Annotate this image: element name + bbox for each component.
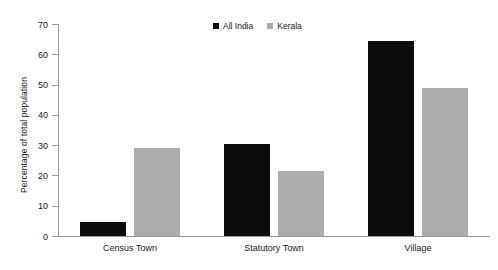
y-axis-tick: 0	[52, 236, 58, 237]
y-axis-tick-label: 50	[38, 81, 48, 90]
bar-all-india-census-town	[80, 222, 126, 236]
bar-kerala-village	[422, 88, 468, 236]
y-axis-tick-label: 70	[38, 20, 48, 29]
x-axis-label-village: Village	[405, 243, 432, 253]
bar-all-india-statutory-town	[224, 144, 270, 236]
bar-kerala-census-town	[134, 148, 180, 236]
legend-swatch-icon	[267, 23, 273, 29]
x-axis-label-statutory-town: Statutory Town	[244, 243, 303, 253]
legend-entry-kerala[interactable]: Kerala	[267, 22, 302, 31]
x-axis-line	[58, 236, 490, 237]
bar-all-india-village	[368, 41, 414, 236]
y-axis-tick-label: 30	[38, 141, 48, 150]
legend-label: Kerala	[277, 22, 302, 31]
x-axis-label-census-town: Census Town	[103, 243, 157, 253]
legend-swatch-icon	[213, 23, 219, 29]
y-axis-tick-label: 60	[38, 50, 48, 59]
bar-kerala-statutory-town	[278, 171, 324, 236]
y-axis-tick-label: 10	[38, 202, 48, 211]
bar-chart: Percentage of total population 010203040…	[0, 0, 498, 270]
chart-legend: All IndiaKerala	[213, 22, 302, 31]
y-axis-title: Percentage of total population	[12, 0, 36, 270]
y-axis-tick-label: 0	[43, 232, 48, 241]
y-axis-tick-label: 20	[38, 171, 48, 180]
legend-label: All India	[223, 22, 253, 31]
plot-area	[58, 24, 490, 236]
y-axis-tick-label: 40	[38, 111, 48, 120]
legend-entry-all-india[interactable]: All India	[213, 22, 253, 31]
